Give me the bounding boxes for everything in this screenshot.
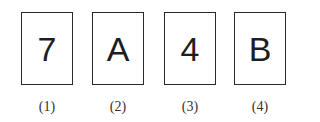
card-symbol: 4 [181,32,200,66]
card-label-1: (1) [21,99,73,115]
card-symbol: B [249,32,272,66]
card-label-2: (2) [92,99,144,115]
card-label-3: (3) [164,99,216,115]
card-4: B [234,12,286,85]
card-3: 4 [164,12,216,85]
card-2: A [92,12,144,85]
card-symbol: A [107,32,130,66]
card-1: 7 [21,12,73,85]
card-symbol: 7 [38,32,57,66]
card-label-4: (4) [234,99,286,115]
